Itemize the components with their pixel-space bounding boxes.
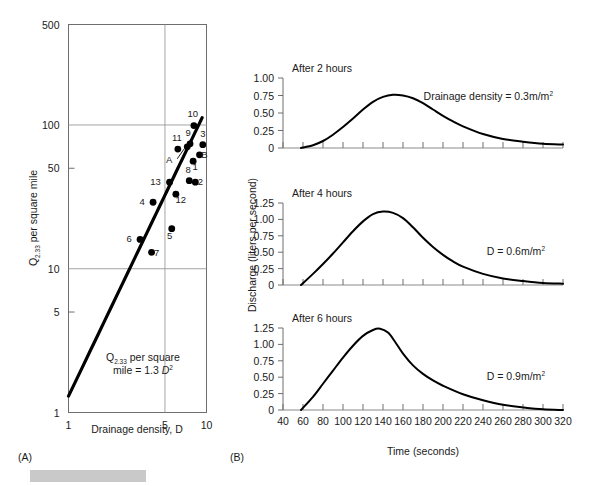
panel-a-y-tick-label: 500 <box>42 19 60 31</box>
panel-b-x-tick-label: 120 <box>354 415 372 427</box>
hydrograph-title: After 2 hours <box>292 62 352 74</box>
scatter-point-label: A <box>166 154 173 165</box>
scatter-point-label: 5 <box>167 230 172 241</box>
panel-b-x-tick-label: 40 <box>277 415 289 427</box>
panel-a-y-ticks: 151050100500 <box>42 19 75 419</box>
scatter-point-label: 11 <box>172 132 182 143</box>
panel-a-annotation-line1: Q2.33 per square <box>106 351 180 365</box>
hydrograph-series-label: D = 0.6m/m2 <box>487 245 546 257</box>
panel-b-y-tick-label: 0.25 <box>254 388 275 400</box>
scatter-point-label: 9 <box>185 127 190 138</box>
scatter-point <box>174 146 181 153</box>
figure-root: 151050100500 1510 109311BA18213124567 Dr… <box>0 0 593 486</box>
scatter-point <box>166 179 173 186</box>
hydrograph-subplot: 00.250.500.751.00After 2 hoursDrainage d… <box>254 62 563 154</box>
panel-b-y-tick-label: 0.25 <box>254 125 275 137</box>
panel-b-y-tick-label: 0.75 <box>254 355 275 367</box>
panel-a-x-tick-label: 10 <box>201 419 213 431</box>
panel-a-y-tick-label: 100 <box>42 119 60 131</box>
panel-a-y-tick-label: 50 <box>48 162 60 174</box>
panel-a-letter: (A) <box>18 451 32 463</box>
hydrograph-curve <box>301 95 563 148</box>
panel-b-hydrographs: 00.250.500.751.00After 2 hoursDrainage d… <box>230 62 572 463</box>
panel-a-y-tick-label: 1 <box>54 407 60 419</box>
panel-b-subplot-group: 00.250.500.751.00After 2 hoursDrainage d… <box>254 62 572 427</box>
panel-b-x-tick-label: 140 <box>374 415 392 427</box>
scatter-point-label: 4 <box>139 196 144 207</box>
panel-a-y-tick-label: 10 <box>48 263 60 275</box>
scatter-point <box>150 199 157 206</box>
scatter-point-label: B <box>201 149 207 160</box>
panel-a-x-axis-title: Drainage density, D <box>91 423 183 435</box>
scatter-point <box>190 122 197 129</box>
panel-b-x-tick-label: 300 <box>534 415 552 427</box>
panel-a-x-tick-label: 1 <box>66 419 72 431</box>
panel-b-y-tick-label: 1.00 <box>254 72 275 84</box>
scatter-point-label: 2 <box>198 176 203 187</box>
scatter-point <box>186 177 193 184</box>
panel-b-x-tick-label: 80 <box>317 415 329 427</box>
panel-a-annotation-line2: mile = 1.3 D2 <box>113 364 173 376</box>
scatter-point-label: 7 <box>154 247 159 258</box>
panel-b-y-tick-label: 0.50 <box>254 371 275 383</box>
panel-b-x-tick-label: 160 <box>394 415 412 427</box>
scatter-point-label: 10 <box>188 108 199 119</box>
panel-b-y-tick-label: 0.75 <box>254 90 275 102</box>
panel-b-x-tick-label: 100 <box>334 415 352 427</box>
hydrograph-title: After 6 hours <box>292 312 352 324</box>
hydrograph-title: After 4 hours <box>292 187 352 199</box>
panel-b-y-tick-label: 1.25 <box>254 322 275 334</box>
panel-b-y-tick-label: 0 <box>268 142 274 154</box>
bottom-gray-bar <box>30 470 146 482</box>
panel-b-x-tick-label: 180 <box>414 415 432 427</box>
scatter-point-label: 6 <box>126 233 131 244</box>
hydrograph-subplot: 00.250.500.751.001.25After 4 hoursD = 0.… <box>254 187 563 291</box>
scatter-point-label: 13 <box>150 176 161 187</box>
panel-b-y-tick-label: 0 <box>268 279 274 291</box>
panel-b-y-axis-title: Discharge (liters per second) <box>246 178 258 312</box>
panel-b-x-tick-label: 320 <box>554 415 572 427</box>
scatter-point <box>137 236 144 243</box>
panel-b-y-tick-label: 1.00 <box>254 338 275 350</box>
panel-b-x-tick-label: 240 <box>474 415 492 427</box>
panel-b-y-tick-label: 0 <box>268 404 274 416</box>
panel-b-x-tick-label: 200 <box>434 415 452 427</box>
panel-b-letter: (B) <box>230 451 244 463</box>
panel-b-x-tick-label: 60 <box>297 415 309 427</box>
scatter-point <box>199 141 206 148</box>
panel-a-scatter-chart: 151050100500 1510 109311BA18213124567 Dr… <box>18 19 212 464</box>
hydrograph-subplot: 00.250.500.751.001.254060801001201401601… <box>254 312 572 427</box>
panel-a-y-axis-title: Q2.33 per square mile <box>27 170 41 266</box>
scatter-point <box>184 143 191 150</box>
panel-b-x-tick-label: 260 <box>494 415 512 427</box>
hydrograph-series-label: D = 0.9m/m2 <box>487 370 546 382</box>
scatter-point-label: 12 <box>176 194 187 205</box>
scatter-point-label: 1 <box>192 161 197 172</box>
panel-b-x-axis-title: Time (seconds) <box>387 445 459 457</box>
panel-b-y-tick-label: 0.50 <box>254 107 275 119</box>
panel-a-y-tick-label: 5 <box>54 306 60 318</box>
panel-b-x-tick-label: 280 <box>514 415 532 427</box>
scatter-point-label: 8 <box>186 164 191 175</box>
panel-b-x-tick-label: 220 <box>454 415 472 427</box>
scatter-point-label: 3 <box>200 128 205 139</box>
hydrograph-series-label: Drainage density = 0.3m/m2 <box>424 90 554 102</box>
